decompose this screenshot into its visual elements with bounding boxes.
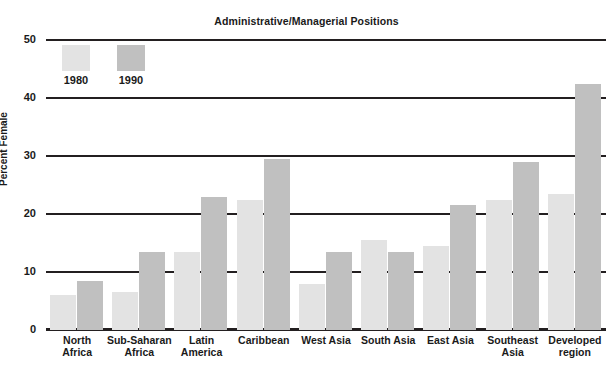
- y-tick-label: 0: [8, 323, 36, 335]
- bar-1990: [201, 197, 227, 330]
- bar-1990: [264, 159, 290, 330]
- bar-1990: [326, 252, 352, 330]
- y-tick-label: 50: [8, 33, 36, 45]
- legend-label-1980: 1980: [56, 74, 96, 86]
- x-tick-label-line: America: [161, 346, 241, 358]
- bar-1980: [237, 200, 263, 331]
- bar-chart: Administrative/Managerial Positions Perc…: [0, 0, 613, 368]
- y-tick-label: 10: [8, 265, 36, 277]
- x-tick-label-line: region: [535, 346, 613, 358]
- bar-1980: [299, 284, 325, 330]
- bar-1980: [112, 292, 138, 330]
- bar-cluster: [357, 40, 419, 330]
- bar-1990: [77, 281, 103, 330]
- bar-1980: [50, 295, 76, 330]
- x-tick-label-line: Developed: [535, 334, 613, 346]
- bar-1980: [361, 240, 387, 330]
- y-tick-label: 20: [8, 207, 36, 219]
- bar-1990: [450, 205, 476, 330]
- bar-cluster: [295, 40, 357, 330]
- legend-label-1990: 1990: [111, 74, 151, 86]
- bar-1990: [575, 84, 601, 331]
- bar-1980: [486, 200, 512, 331]
- bar-cluster: [170, 40, 232, 330]
- bar-1990: [513, 162, 539, 330]
- y-tick-label: 40: [8, 91, 36, 103]
- x-tick-label: Developedregion: [535, 334, 613, 358]
- bar-cluster: [419, 40, 481, 330]
- chart-title: Administrative/Managerial Positions: [0, 15, 613, 27]
- legend-swatch-1980: [62, 45, 90, 71]
- bar-1990: [139, 252, 165, 330]
- y-tick-label: 30: [8, 149, 36, 161]
- bar-1980: [423, 246, 449, 330]
- legend-swatch-1990: [117, 45, 145, 71]
- bar-1980: [174, 252, 200, 330]
- bar-cluster: [482, 40, 544, 330]
- bar-1990: [388, 252, 414, 330]
- bar-1980: [548, 194, 574, 330]
- bar-cluster: [544, 40, 606, 330]
- bar-cluster: [233, 40, 295, 330]
